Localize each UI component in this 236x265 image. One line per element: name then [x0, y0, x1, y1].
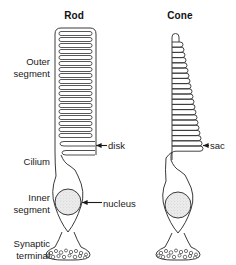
label-inner-segment: Inner segment [2, 192, 50, 215]
callout-label-nucleus: nucleus [103, 198, 136, 209]
rod-cilium-inner-edge [55, 152, 56, 176]
rod-basal-folded-membrane [60, 142, 95, 156]
callout-label-sac: sac [210, 140, 225, 151]
rod-cone-diagram: Rod Cone Outer segment Cilium Inner segm… [0, 0, 236, 265]
cone-axon [165, 233, 191, 247]
rod-nucleus [55, 189, 81, 215]
rod-cell [46, 28, 96, 260]
column-title-cone: Cone [152, 10, 208, 21]
rod-cilium [61, 155, 78, 176]
label-cilium: Cilium [2, 156, 50, 168]
column-title-rod: Rod [46, 10, 102, 21]
rod-axon [55, 232, 81, 247]
cone-cilium-inner-edge [166, 158, 167, 181]
cone-nucleus [165, 192, 191, 218]
label-synaptic-terminal: Synaptic terminal [0, 238, 50, 261]
cone-outer-segment-sacs [171, 42, 203, 160]
label-outer-segment: Outer segment [2, 56, 50, 79]
callout-label-disk: disk [108, 140, 125, 151]
cone-cell [156, 34, 203, 261]
cone-cilium [171, 160, 188, 181]
rod-disk-stack [59, 32, 92, 138]
photoreceptor-svg [0, 0, 236, 265]
cone-outer-segment-tip [172, 34, 179, 43]
